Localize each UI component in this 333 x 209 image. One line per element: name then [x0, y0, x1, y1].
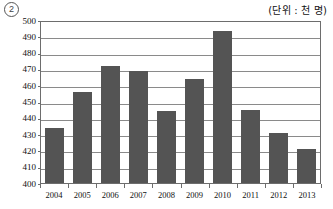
bar-2006	[101, 66, 120, 183]
bar-2013	[297, 149, 316, 183]
bar-2005	[73, 92, 92, 183]
y-axis-tick-label: 450	[23, 98, 37, 107]
plot-area	[40, 21, 321, 184]
x-axis-tick-mark	[209, 184, 210, 188]
x-axis-tick-mark	[152, 184, 153, 188]
bar-2012	[269, 133, 288, 184]
y-axis-tick-label: 440	[23, 114, 37, 123]
bar-cell	[181, 22, 209, 183]
bar-2010	[213, 31, 232, 183]
bar-cell	[125, 22, 153, 183]
x-axis-tick-mark	[40, 184, 41, 188]
bar-cell	[292, 22, 320, 183]
bar-2011	[241, 110, 260, 183]
x-axis-tick-label: 2011	[237, 190, 265, 200]
x-axis-tick-label: 2013	[293, 190, 321, 200]
x-axis-tick-mark	[96, 184, 97, 188]
chart-header: 2 (단위 : 천 명)	[0, 0, 333, 20]
y-axis-tick-label: 500	[23, 17, 37, 26]
item-number-badge: 2	[4, 2, 19, 17]
bar-cell	[208, 22, 236, 183]
bar-cell	[97, 22, 125, 183]
bar-cell	[153, 22, 181, 183]
bar-cell	[264, 22, 292, 183]
x-axis-tick-label: 2010	[209, 190, 237, 200]
bar-2007	[129, 71, 148, 184]
y-axis-tick-label: 480	[23, 49, 37, 58]
x-axis-tick-mark	[124, 184, 125, 188]
bar-cell	[69, 22, 97, 183]
x-axis-tick-label: 2006	[96, 190, 124, 200]
x-axis-ticks	[40, 184, 321, 189]
y-axis-tick-label: 420	[23, 147, 37, 156]
y-axis-tick-label: 460	[23, 82, 37, 91]
bar-2004	[45, 128, 64, 183]
x-axis-tick-mark	[237, 184, 238, 188]
x-axis-tick-mark	[321, 184, 322, 188]
bar-2009	[185, 79, 204, 183]
x-axis-tick-mark	[181, 184, 182, 188]
bar-cell	[41, 22, 69, 183]
y-axis-tick-label: 410	[23, 163, 37, 172]
bar-2008	[157, 111, 176, 183]
x-axis-tick-mark	[265, 184, 266, 188]
x-axis-tick-label: 2005	[68, 190, 96, 200]
y-axis-tick-label: 400	[23, 180, 37, 189]
bar-series	[41, 22, 320, 183]
x-axis-tick-mark	[293, 184, 294, 188]
x-axis-tick-label: 2009	[180, 190, 208, 200]
x-axis-tick-label: 2012	[265, 190, 293, 200]
x-axis-tick-label: 2007	[124, 190, 152, 200]
x-axis-tick-mark	[68, 184, 69, 188]
y-axis: 500490480470460450440430420410400	[0, 21, 38, 184]
x-axis-tick-label: 2004	[40, 190, 68, 200]
y-axis-tick-label: 490	[23, 33, 37, 42]
x-axis-labels: 2004200520062007200820092010201120122013	[40, 190, 321, 200]
bar-cell	[236, 22, 264, 183]
unit-note-label: (단위 : 천 명)	[268, 2, 327, 17]
y-axis-tick-label: 430	[23, 131, 37, 140]
x-axis-tick-label: 2008	[152, 190, 180, 200]
y-axis-tick-label: 470	[23, 65, 37, 74]
chart-page: 2 (단위 : 천 명) 500490480470460450440430420…	[0, 0, 333, 209]
x-axis: 2004200520062007200820092010201120122013	[40, 184, 321, 206]
